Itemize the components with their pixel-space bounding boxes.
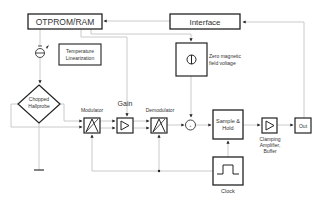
hallprobe-line1: Chopped bbox=[29, 96, 50, 102]
modulator-label: Modulator bbox=[81, 107, 104, 113]
summing-junction: + bbox=[186, 120, 196, 130]
temperature-sensor-icon bbox=[36, 45, 50, 58]
clamping-line3: Buffer bbox=[263, 148, 277, 154]
connections bbox=[11, 21, 304, 171]
demodulator-block[interactable]: Demodulator bbox=[146, 107, 175, 133]
modulator-block[interactable]: Modulator bbox=[81, 107, 104, 133]
zero-field-line2: field voltage bbox=[209, 60, 236, 66]
out-label: Out bbox=[299, 123, 308, 129]
junction-dot bbox=[158, 170, 160, 172]
demodulator-label: Demodulator bbox=[146, 107, 175, 113]
interface-block[interactable]: Interface bbox=[170, 14, 240, 29]
zero-field-line1: Zero magnetic bbox=[209, 53, 241, 59]
temp-lin-line1: Temperature bbox=[66, 48, 94, 54]
otprom-ram-block[interactable]: OTPROM/RAM bbox=[28, 14, 102, 29]
clock-label: Clock bbox=[221, 188, 235, 194]
sample-hold-line1: Sample & bbox=[216, 118, 240, 124]
otprom-label: OTPROM/RAM bbox=[36, 17, 95, 27]
gain-amplifier-block[interactable]: Gain bbox=[117, 100, 133, 133]
temperature-linearization-block[interactable]: Temperature Linearization bbox=[59, 44, 101, 65]
hallprobe-line2: Hallprobe bbox=[28, 103, 50, 109]
clamping-amplifier-block[interactable]: Clamping Amplifier, Buffer bbox=[259, 118, 280, 154]
chopped-hallprobe-block[interactable]: Chopped Hallprobe bbox=[18, 85, 60, 123]
sample-hold-block[interactable]: Sample & Hold bbox=[213, 110, 243, 139]
clock-block[interactable]: Clock bbox=[213, 157, 243, 194]
sample-hold-line2: Hold bbox=[222, 125, 233, 131]
zero-field-voltage-block[interactable]: Zero magnetic field voltage bbox=[176, 43, 241, 76]
temp-lin-line2: Linearization bbox=[66, 55, 95, 61]
block-diagram: OTPROM/RAM Interface Temperature Lineari… bbox=[0, 0, 321, 204]
gain-label: Gain bbox=[118, 100, 133, 107]
out-block[interactable]: Out bbox=[295, 118, 311, 133]
interface-label: Interface bbox=[189, 18, 221, 27]
